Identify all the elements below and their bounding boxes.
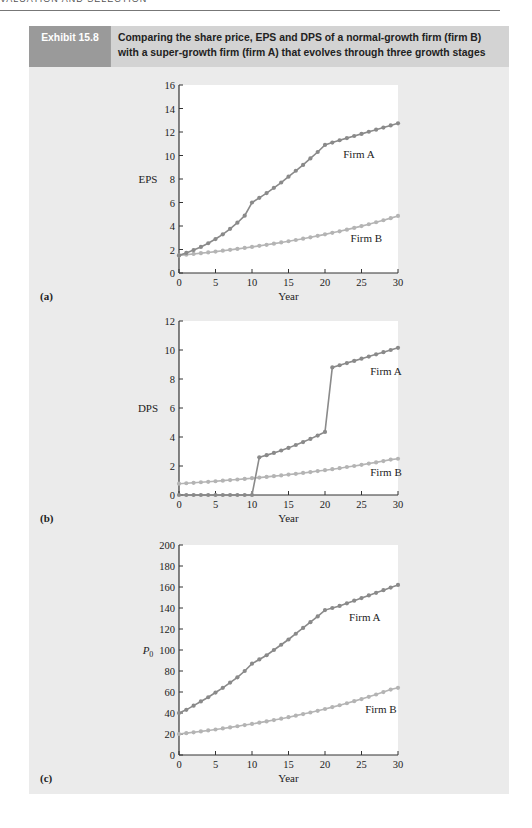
y-tick-label: 80 <box>165 666 176 677</box>
data-point-marker <box>250 493 254 497</box>
y-tick-label: 180 <box>159 561 175 572</box>
data-point-marker <box>257 244 261 248</box>
chart-c: 020406080100120140160180200051015202530Y… <box>40 540 403 785</box>
y-tick-label: 4 <box>170 221 176 232</box>
data-point-marker <box>308 620 312 624</box>
data-point-marker <box>213 237 217 241</box>
data-point-marker <box>323 143 327 147</box>
y-tick-label: 14 <box>165 104 176 115</box>
y-tick-label: 16 <box>165 80 176 91</box>
data-point-marker <box>316 433 320 437</box>
data-point-marker <box>265 453 269 457</box>
y-tick-label: 8 <box>170 174 175 185</box>
data-point-marker <box>330 606 334 610</box>
data-point-marker <box>301 626 305 630</box>
data-point-marker <box>257 657 261 661</box>
data-point-marker <box>257 455 261 459</box>
data-point-marker <box>243 669 247 673</box>
data-point-marker <box>396 686 400 690</box>
data-point-marker <box>228 248 232 252</box>
data-point-marker <box>367 222 371 226</box>
data-point-marker <box>192 493 196 497</box>
data-point-marker <box>345 601 349 605</box>
data-point-marker <box>279 448 283 452</box>
data-point-marker <box>221 249 225 253</box>
data-point-marker <box>286 175 290 179</box>
data-point-marker <box>316 469 320 473</box>
data-point-marker <box>243 214 247 218</box>
y-tick-label: 12 <box>165 127 176 138</box>
data-point-marker <box>228 493 232 497</box>
data-point-marker <box>177 253 181 257</box>
data-point-marker <box>272 648 276 652</box>
data-point-marker <box>381 218 385 222</box>
data-point-marker <box>381 459 385 463</box>
x-tick-label: 15 <box>283 277 294 288</box>
series-label: Firm A <box>343 148 375 160</box>
data-point-marker <box>235 477 239 481</box>
data-point-marker <box>243 477 247 481</box>
chart-b: 024681012051015202530YearDPS(b)Firm BFir… <box>40 316 403 525</box>
data-point-marker <box>184 251 188 255</box>
data-point-marker <box>359 224 363 228</box>
x-tick-label: 25 <box>356 499 367 510</box>
data-point-marker <box>192 481 196 485</box>
data-point-marker <box>323 707 327 711</box>
data-point-marker <box>359 596 363 600</box>
data-point-marker <box>243 493 247 497</box>
data-point-marker <box>359 132 363 136</box>
x-tick-label: 5 <box>213 759 218 770</box>
data-point-marker <box>199 699 203 703</box>
series-label: Firm A <box>349 611 381 623</box>
y-tick-label: 120 <box>159 624 175 635</box>
data-point-marker <box>213 250 217 254</box>
data-point-marker <box>308 470 312 474</box>
data-point-marker <box>199 729 203 733</box>
data-point-marker <box>199 480 203 484</box>
data-point-marker <box>323 232 327 236</box>
data-point-marker <box>381 125 385 129</box>
data-point-marker <box>184 731 188 735</box>
data-point-marker <box>294 238 298 242</box>
data-point-marker <box>279 180 283 184</box>
x-tick-label: 30 <box>393 277 404 288</box>
data-point-marker <box>177 493 181 497</box>
series-label: Firm A <box>370 365 402 377</box>
x-tick-label: 0 <box>176 499 181 510</box>
data-point-marker <box>250 200 254 204</box>
data-point-marker <box>367 593 371 597</box>
data-point-marker <box>330 140 334 144</box>
data-point-marker <box>228 725 232 729</box>
data-point-marker <box>374 352 378 356</box>
data-point-marker <box>301 440 305 444</box>
data-point-marker <box>330 365 334 369</box>
panel-label: (b) <box>40 512 54 525</box>
data-point-marker <box>265 191 269 195</box>
data-point-marker <box>213 493 217 497</box>
panel-label: (a) <box>40 290 53 303</box>
data-point-marker <box>352 464 356 468</box>
data-point-marker <box>177 732 181 736</box>
data-point-marker <box>301 471 305 475</box>
data-point-marker <box>286 239 290 243</box>
y-tick-label: 20 <box>165 729 176 740</box>
plot-area <box>179 545 398 755</box>
data-point-marker <box>243 723 247 727</box>
y-tick-label: 6 <box>170 198 175 209</box>
x-tick-label: 10 <box>247 277 258 288</box>
y-tick-label: 8 <box>170 374 175 385</box>
data-point-marker <box>294 632 298 636</box>
data-point-marker <box>206 728 210 732</box>
data-point-marker <box>199 493 203 497</box>
data-point-marker <box>389 123 393 127</box>
data-point-marker <box>228 227 232 231</box>
data-point-marker <box>294 714 298 718</box>
data-point-marker <box>286 715 290 719</box>
data-point-marker <box>301 237 305 241</box>
x-tick-label: 5 <box>213 277 218 288</box>
x-axis-title: Year <box>278 290 299 302</box>
data-point-marker <box>294 443 298 447</box>
y-tick-label: 60 <box>165 687 176 698</box>
data-point-marker <box>367 461 371 465</box>
data-point-marker <box>235 724 239 728</box>
